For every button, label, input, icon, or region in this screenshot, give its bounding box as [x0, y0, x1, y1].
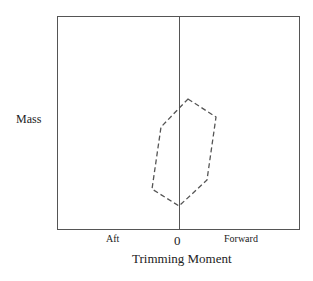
dashed-envelope — [152, 99, 216, 206]
aft-label: Aft — [106, 233, 119, 244]
y-axis-label: Mass — [16, 112, 41, 127]
forward-label: Forward — [224, 233, 258, 244]
diagram-canvas — [0, 0, 313, 281]
plot-frame — [58, 17, 300, 230]
x-axis-label: Trimming Moment — [132, 251, 232, 267]
zero-label: 0 — [174, 233, 181, 249]
